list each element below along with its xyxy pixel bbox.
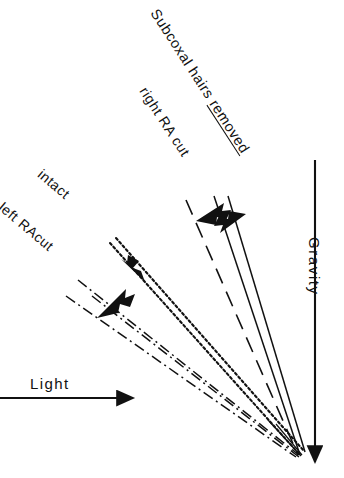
trace-right-ra-cut	[186, 200, 298, 455]
trace-left-ra-cut	[66, 280, 299, 457]
angle-markers	[97, 203, 246, 318]
figure-canvas: Subcoxal hairs removed right RA cut inta…	[0, 0, 344, 478]
trace-subcoxal-hairs-removed	[214, 196, 305, 455]
angle-marker-left-lower	[97, 289, 135, 318]
label-light: Light	[30, 375, 70, 392]
label-gravity: Gravity	[306, 237, 323, 296]
